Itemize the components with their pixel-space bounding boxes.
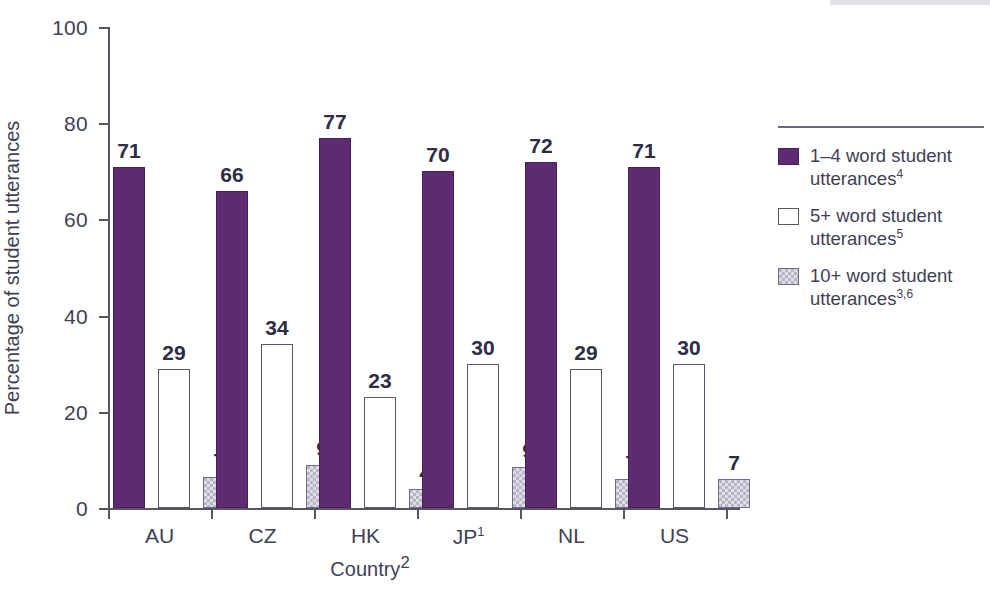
bar-value-label-us-series1: 30 [677,336,700,360]
y-tick-80: 80 [99,123,108,125]
x-axis-category-text: HK [351,524,380,547]
x-tick-4 [520,508,522,519]
legend-label-series1-line2: utterances [810,228,896,249]
bar-value-label-au-series1: 29 [162,341,185,365]
y-tick-label-20: 20 [64,401,88,425]
bar-value-label-nl-series1: 29 [574,341,597,365]
x-tick-3 [417,508,419,519]
y-axis-title: Percentage of student utterances [1,120,24,415]
y-tick-0: 0 [99,508,108,510]
bar-jp-series1: 30 [467,364,499,508]
bar-cz-series0: 66 [216,191,248,508]
bar-au-series0: 71 [113,167,145,509]
x-axis-title: Country2 [0,553,740,581]
legend-label-series2: 10+ word studentutterances3,6 [810,264,952,311]
y-tick-label-40: 40 [64,305,88,329]
bar-value-label-us-series2: 7 [728,451,740,475]
bar-us-series0: 71 [628,167,660,509]
bar-us-series2: 7 [718,479,750,508]
x-axis-category-label-au: AU [145,524,174,548]
bar-us-series1: 30 [673,364,705,508]
legend-swatch-icon-series2 [778,268,799,285]
bar-value-label-jp-series0: 70 [426,143,449,167]
y-tick-20: 20 [99,412,108,414]
x-axis-category-superscript: 1 [477,524,484,539]
plot-area: 100 80 60 40 20 0 Percentage of student … [108,27,740,508]
x-axis-category-label-us: US [660,524,689,548]
legend-label-series0-line2: utterances [810,168,896,189]
bar-jp-series0: 70 [422,171,454,508]
bar-hk-series1: 23 [364,397,396,508]
x-axis-title-superscript: 2 [400,553,409,572]
y-tick-100: 100 [99,27,108,29]
x-axis-category-text: US [660,524,689,547]
bar-value-label-hk-series0: 77 [323,110,346,134]
x-axis-category-text: JP [453,525,478,548]
bar-value-label-nl-series0: 72 [529,134,552,158]
x-axis-category-label-hk: HK [351,524,380,548]
legend-item-1-4-word[interactable]: 1–4 word studentutterances4 [778,144,984,191]
x-axis-category-text: AU [145,524,174,547]
bar-hk-series0: 77 [319,138,351,508]
legend-label-series0-line1: 1–4 word student [810,145,952,166]
x-axis-category-text: NL [558,524,585,547]
x-axis-category-label-nl: NL [558,524,585,548]
bar-chart-figure: 100 80 60 40 20 0 Percentage of student … [0,0,990,597]
x-axis-category-label-cz: CZ [249,524,277,548]
y-tick-60: 60 [99,219,108,221]
scan-artifact-strip [830,0,990,5]
y-axis-line [108,27,110,509]
bar-value-label-hk-series1: 23 [368,369,391,393]
bar-value-label-cz-series0: 66 [220,163,243,187]
x-tick-2 [314,508,316,519]
bar-au-series1: 29 [158,369,190,508]
x-axis-line [108,508,740,510]
bar-value-label-au-series0: 71 [117,139,140,163]
y-tick-label-100: 100 [52,16,88,40]
legend-label-series1-superscript: 5 [896,227,903,241]
bar-value-label-jp-series1: 30 [471,336,494,360]
legend-label-series1: 5+ word studentutterances5 [810,204,942,251]
legend-label-series0-superscript: 4 [896,167,903,181]
x-tick-6 [726,508,728,519]
legend-label-series2-line2: utterances [810,288,896,309]
bar-value-label-cz-series1: 34 [265,316,288,340]
x-axis-category-label-jp: JP1 [453,524,485,549]
legend-label-series1-line1: 5+ word student [810,205,942,226]
y-tick-label-80: 80 [64,112,88,136]
bar-nl-series1: 29 [570,369,602,508]
legend-label-series2-superscript: 3,6 [896,287,913,301]
bar-cz-series1: 34 [261,344,293,508]
x-tick-0 [108,508,110,519]
y-tick-label-60: 60 [64,208,88,232]
legend-swatch-icon-series0 [778,148,799,165]
bar-value-label-us-series0: 71 [632,139,655,163]
y-tick-40: 40 [99,316,108,318]
x-tick-1 [211,508,213,519]
bar-nl-series0: 72 [525,162,557,508]
x-tick-5 [623,508,625,519]
legend: 1–4 word studentutterances4 5+ word stud… [778,126,984,323]
legend-label-series0: 1–4 word studentutterances4 [810,144,952,191]
legend-item-5-plus-word[interactable]: 5+ word studentutterances5 [778,204,984,251]
legend-top-rule [778,126,984,128]
legend-swatch-icon-series1 [778,208,799,225]
y-tick-label-0: 0 [76,497,88,521]
legend-item-10-plus-word[interactable]: 10+ word studentutterances3,6 [778,264,984,311]
x-axis-category-text: CZ [249,524,277,547]
x-axis-title-text: Country [330,558,400,580]
legend-label-series2-line1: 10+ word student [810,265,952,286]
